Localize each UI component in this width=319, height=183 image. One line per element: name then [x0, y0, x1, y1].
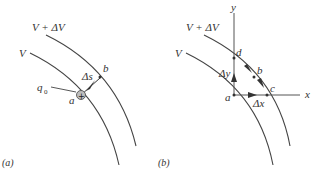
- equipotential-outer-curve: [204, 35, 290, 146]
- figure-canvas: V + ΔV V b Δs + q 0 a (a) V + ΔV V y x: [0, 0, 319, 183]
- label-b: b: [103, 62, 109, 74]
- point-b: [99, 76, 102, 79]
- label-v: V: [19, 47, 27, 59]
- arrowhead-up-icon: [231, 73, 237, 82]
- label-d: d: [236, 46, 242, 58]
- label-delta-y: Δy: [218, 67, 230, 79]
- label-a: a: [69, 94, 75, 106]
- label-a: a: [225, 91, 231, 103]
- panel-b: V + ΔV V y x a b c d Δx Δy (b): [158, 1, 310, 169]
- panel-a: V + ΔV V b Δs + q 0 a (a): [2, 21, 136, 169]
- point-b: [253, 76, 256, 79]
- q0-leader-line: [51, 87, 76, 92]
- panel-label-a: (a): [2, 157, 14, 169]
- label-v: V: [175, 47, 183, 59]
- label-c: c: [270, 82, 275, 94]
- label-v-plus-dv: V + ΔV: [186, 21, 220, 33]
- panel-label-b: (b): [158, 157, 170, 169]
- label-delta-s: Δs: [81, 70, 93, 82]
- point-c: [266, 94, 269, 97]
- label-q: q: [37, 81, 43, 93]
- equipotential-outer-curve: [46, 35, 136, 146]
- y-axis-label: y: [230, 1, 236, 13]
- label-b: b: [257, 64, 263, 76]
- point-a: [233, 94, 236, 97]
- clipped-caption: [0, 177, 319, 183]
- plus-sign-icon: +: [78, 92, 85, 101]
- label-v-plus-dv: V + ΔV: [32, 21, 66, 33]
- x-axis-label: x: [304, 88, 310, 100]
- label-delta-x: Δx: [252, 97, 264, 109]
- label-q-subscript: 0: [44, 88, 48, 96]
